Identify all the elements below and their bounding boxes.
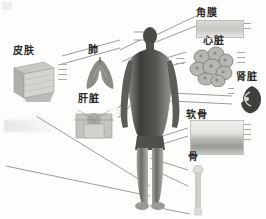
label-cartilage: 软骨 (186, 110, 208, 120)
label-kidney: 肾脏 (236, 72, 258, 82)
human-body-silhouette (117, 26, 183, 211)
label-cornea: 角膜 (196, 8, 218, 18)
cartilage-scale-ticks (243, 124, 251, 144)
label-lung: 肺 (88, 45, 99, 55)
liver-specimen (70, 104, 118, 142)
kidney-scale-ticks (228, 88, 234, 98)
bone-specimen (190, 165, 206, 217)
anatomy-diagram: 皮肤 肺 肝脏 角膜 心脏 肾脏 软骨 骨 (0, 0, 266, 219)
lung-specimen (78, 55, 122, 91)
cartilage-strip-specimen (190, 120, 244, 155)
kidney-specimen (234, 84, 262, 114)
label-bone: 骨 (188, 152, 199, 162)
cornea-scale-ticks (243, 23, 251, 33)
heart-scale-ticks (237, 52, 245, 67)
label-heart: 心脏 (203, 36, 225, 46)
heart-left-ticks (176, 58, 184, 68)
skin-scale-ticks (58, 64, 67, 84)
skin-block-specimen (10, 58, 58, 102)
label-liver: 肝脏 (78, 94, 100, 104)
heart-tissue-specimen (188, 45, 236, 87)
label-skin: 皮肤 (13, 46, 35, 56)
